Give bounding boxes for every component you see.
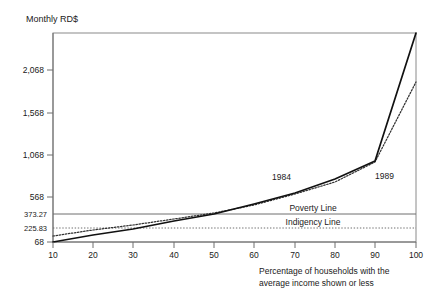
series-label-1989: 1989	[375, 171, 394, 181]
indigency-line-label: Indigency Line	[286, 217, 341, 227]
x-axis-ticks	[53, 242, 416, 248]
y-tick-label-2068: 2,068	[23, 65, 45, 75]
x-axis-caption-line1: Percentage of households with the	[259, 266, 390, 276]
x-tick-label-30: 30	[128, 250, 138, 260]
x-tick-label-10: 10	[48, 250, 58, 260]
y-tick-label-225: 225.83	[24, 224, 47, 233]
y-tick-label-568: 568	[30, 192, 44, 202]
plot-frame	[53, 33, 416, 242]
chart-svg: 2,068 1,568 1,068 568 373.27 225.83 68 M…	[0, 0, 443, 296]
x-tick-label-40: 40	[169, 250, 179, 260]
x-axis-caption-line2: average income shown or less	[259, 278, 374, 288]
x-tick-label-50: 50	[209, 250, 219, 260]
x-tick-label-70: 70	[290, 250, 300, 260]
x-tick-label-60: 60	[249, 250, 259, 260]
y-axis-ticks	[47, 70, 53, 242]
y-tick-label-373: 373.27	[24, 210, 47, 219]
chart-figure: 2,068 1,568 1,068 568 373.27 225.83 68 M…	[0, 0, 443, 296]
series-line-1989	[53, 33, 416, 242]
x-tick-label-100: 100	[409, 250, 423, 260]
y-axis-title: Monthly RD$	[26, 14, 78, 24]
series-line-1984	[53, 82, 416, 236]
y-tick-label-68: 68	[35, 237, 45, 247]
x-tick-label-20: 20	[88, 250, 98, 260]
x-tick-label-80: 80	[330, 250, 340, 260]
y-tick-label-1568: 1,568	[23, 108, 45, 118]
poverty-line-label: Poverty Line	[289, 203, 337, 213]
y-tick-label-1068: 1,068	[23, 150, 45, 160]
series-label-1984: 1984	[272, 172, 291, 182]
x-tick-label-90: 90	[370, 250, 380, 260]
